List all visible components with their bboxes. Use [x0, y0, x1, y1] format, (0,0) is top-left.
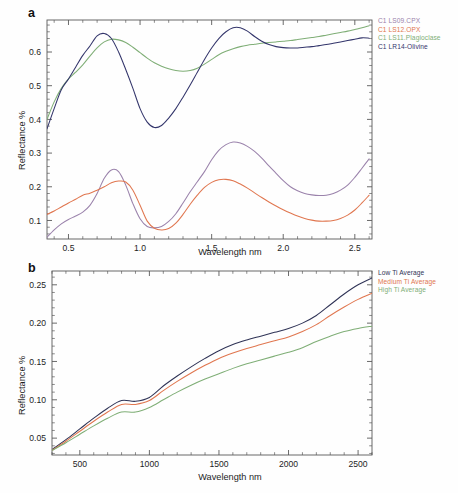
- legend-a-item-0: C1 LS09.CPX: [378, 17, 441, 26]
- ytick-label: 0.1: [29, 216, 41, 226]
- ytick-label: 0.3: [29, 148, 41, 158]
- plot-frame: [52, 271, 372, 455]
- legend-a-item-2: C1 LS11.Plagioclase: [378, 34, 441, 43]
- figure-container: a 0.51.01.52.02.50.10.20.30.40.50.6 Wave…: [0, 0, 458, 493]
- series-line: [47, 179, 369, 230]
- plot-frame: [47, 20, 372, 239]
- ytick-label: 0.4: [29, 115, 41, 125]
- series-group: [52, 278, 372, 451]
- series-line: [47, 27, 369, 129]
- xtick-label: 2000: [279, 459, 298, 469]
- legend-b-item-1: Medium Ti Average: [378, 278, 436, 287]
- series-line: [52, 278, 372, 450]
- panel-a-legend: C1 LS09.CPXC1 LS12.OPXC1 LS11.Plagioclas…: [378, 17, 441, 51]
- xtick-label: 2.5: [349, 243, 361, 253]
- series-line: [52, 326, 372, 450]
- ytick-label: 0.20: [29, 318, 46, 328]
- legend-a-item-1: C1 LS12.OPX: [378, 26, 441, 35]
- xtick-label: 2500: [349, 459, 368, 469]
- ytick-label: 0.6: [29, 47, 41, 57]
- panel-b-xaxis-title: Wavelength nm: [110, 472, 350, 482]
- series-group: [47, 26, 369, 238]
- xtick-label: 500: [73, 459, 88, 469]
- legend-b-item-0: Low Ti Average: [378, 269, 436, 278]
- series-line: [47, 26, 369, 120]
- panel-b-legend: Low Ti AverageMedium Ti AverageHigh Ti A…: [378, 269, 436, 295]
- ytick-label: 0.25: [29, 280, 46, 290]
- legend-a-item-3: C1 LR14-Olivine: [378, 43, 441, 52]
- ytick-label: 0.15: [29, 357, 46, 367]
- xtick-label: 1000: [140, 459, 159, 469]
- panel-b-yaxis-title: Reflectance %: [17, 356, 27, 415]
- xtick-label: 1500: [209, 459, 228, 469]
- ytick-label: 0.05: [29, 433, 46, 443]
- series-line: [47, 142, 369, 237]
- panel-b: b 50010001500200025000.050.100.150.200.2…: [0, 255, 458, 493]
- ytick-label: 0.10: [29, 395, 46, 405]
- panel-a-yaxis-title: Reflectance %: [17, 111, 27, 170]
- xtick-label: 0.5: [62, 243, 74, 253]
- ytick-label: 0.2: [29, 182, 41, 192]
- ytick-label: 0.5: [29, 81, 41, 91]
- legend-b-item-2: High Ti Average: [378, 286, 436, 295]
- series-line: [52, 293, 372, 450]
- panel-a: a 0.51.01.52.02.50.10.20.30.40.50.6 Wave…: [0, 0, 458, 258]
